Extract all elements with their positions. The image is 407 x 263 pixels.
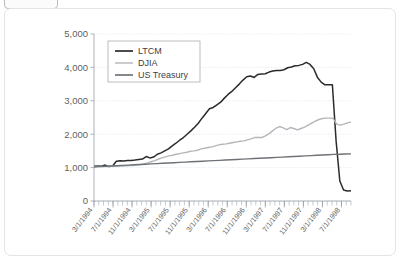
x-minor-ticks [94, 201, 351, 206]
chart-card: 01,0002,0003,0004,0005,0003/1/19947/1/19… [4, 8, 396, 256]
gridlines: 01,0002,0003,0004,0005,000 [64, 28, 351, 206]
y-tick-label: 4,000 [64, 62, 88, 73]
series-line-djia[interactable] [94, 118, 351, 166]
y-tick-label: 3,000 [64, 95, 88, 106]
chart-plot-area: 01,0002,0003,0004,0005,0003/1/19947/1/19… [5, 9, 397, 257]
y-tick-label: 5,000 [64, 28, 88, 39]
y-tick-label: 1,000 [64, 162, 88, 173]
chart-legend[interactable]: LTCMDJIAUS Treasury [108, 41, 200, 82]
legend-label-us-treasury: US Treasury [138, 70, 189, 80]
legend-label-ltcm: LTCM [138, 46, 162, 56]
y-tick-label: 0 [83, 195, 88, 206]
line-chart[interactable]: 01,0002,0003,0004,0005,0003/1/19947/1/19… [5, 9, 397, 257]
legend-label-djia: DJIA [138, 58, 158, 68]
y-tick-label: 2,000 [64, 129, 88, 140]
x-tick-labels: 3/1/19947/1/199411/1/19943/1/19957/1/199… [70, 201, 342, 236]
